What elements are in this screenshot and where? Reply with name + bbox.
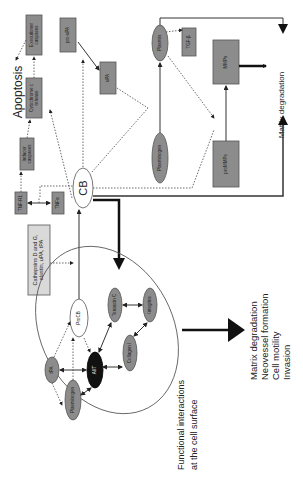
procb-aiit-arrow bbox=[84, 338, 90, 352]
collagen-i-node: Collagen I bbox=[123, 335, 137, 371]
svg-text:Plasminogen: Plasminogen bbox=[157, 144, 162, 171]
svg-text:uPA: uPA bbox=[105, 74, 110, 82]
cb-node: CB bbox=[73, 168, 93, 208]
cb-to-cellsurface-arrow bbox=[93, 200, 119, 262]
plasmin-to-tgfb-arrow bbox=[166, 30, 182, 32]
executioner-caspases-node: Executionercaspases bbox=[26, 15, 42, 55]
outcomes-list: Matrix degradation Neovessel formation C… bbox=[248, 291, 292, 380]
inducer-caspases-node: Inducercaspases bbox=[20, 138, 34, 170]
svg-text:pro-uPA: pro-uPA bbox=[65, 27, 70, 43]
svg-text:Collagen I: Collagen I bbox=[127, 343, 132, 363]
svg-text:Tenascin C: Tenascin C bbox=[112, 293, 117, 316]
cytochrome-c-node: Cytochrome crelease bbox=[26, 78, 42, 118]
prommps-node: proMMPs bbox=[213, 141, 239, 187]
inducer-to-cytc-arrow bbox=[27, 120, 30, 138]
svg-text:Apoptosis: Apoptosis bbox=[11, 66, 25, 119]
plasmin-to-matrix-line bbox=[160, 18, 283, 25]
svg-text:Matrix degradation: Matrix degradation bbox=[277, 72, 286, 138]
svg-text:Executionercaspases: Executionercaspases bbox=[29, 23, 39, 47]
svg-text:AIIT: AIIT bbox=[92, 366, 97, 375]
cb-to-cytc-arrow bbox=[50, 110, 72, 198]
svg-text:Integrins: Integrins bbox=[147, 296, 152, 314]
tnfa-node: TNFα bbox=[52, 192, 64, 214]
proupa-to-upa-arrow bbox=[78, 42, 99, 70]
cb-to-matrix-line bbox=[93, 125, 283, 196]
svg-text:Plasminogen: Plasminogen bbox=[70, 386, 75, 413]
svg-text:Plasmin: Plasmin bbox=[157, 35, 162, 52]
svg-text:TGF-β: TGF-β bbox=[186, 35, 191, 48]
procb-node: ProCB bbox=[70, 299, 88, 337]
tpa-node: tPA bbox=[45, 357, 59, 383]
svg-text:TNF-R1: TNF-R1 bbox=[18, 195, 23, 211]
pro-upa-node: pro-uPA bbox=[60, 18, 76, 52]
integrins-collagen-arrow bbox=[134, 323, 147, 336]
upa-to-plasmin-link bbox=[117, 88, 148, 108]
aiit-node: AIIT bbox=[87, 352, 103, 388]
svg-text:MMPs: MMPs bbox=[223, 55, 228, 68]
tpa-procb-arrow bbox=[54, 322, 70, 357]
tenascin-c-node: Tenascin C bbox=[108, 288, 122, 322]
cathepsins-node: Cathepsins D and G,elastin, uPA, tPA bbox=[28, 225, 50, 295]
svg-text:ProCB: ProCB bbox=[76, 311, 81, 324]
svg-text:CB: CB bbox=[77, 180, 89, 195]
aiit-tenascin-arrow bbox=[99, 323, 111, 352]
tgf-beta-node: TGF-β bbox=[182, 28, 196, 56]
plasminogen-aiit-arrow bbox=[81, 388, 91, 395]
svg-text:Inducercaspases: Inducercaspases bbox=[22, 144, 32, 164]
integrins-node: Integrins bbox=[143, 288, 157, 322]
upa-node: uPA bbox=[100, 62, 116, 94]
tpa-plasminogen-arrow bbox=[52, 383, 62, 405]
plasmin-to-mmp-arrow bbox=[168, 56, 214, 118]
plasminogen-node-upper: Plasminogen bbox=[152, 133, 168, 183]
apoptosis-label: Apoptosis bbox=[11, 66, 25, 119]
diagram-canvas: Apoptosis Executionercaspases Cytochrome… bbox=[0, 0, 303, 491]
svg-text:Functional interactionsat the: Functional interactionsat the cell surfa… bbox=[176, 379, 199, 470]
plasminogen-node-lower: Plasminogen bbox=[65, 380, 81, 420]
tnf-r1-node: TNF-R1 bbox=[15, 192, 27, 214]
svg-text:TNFα: TNFα bbox=[55, 197, 60, 209]
matrix-degradation-label-top: Matrix degradation bbox=[277, 72, 286, 138]
cell-surface-caption: Functional interactionsat the cell surfa… bbox=[176, 379, 199, 470]
mmps-node: MMPs bbox=[213, 40, 239, 84]
svg-text:tPA: tPA bbox=[49, 367, 54, 374]
svg-text:Matrix degradation Neove: Matrix degradation Neovessel formation C… bbox=[248, 291, 292, 380]
plasmin-node: Plasmin bbox=[152, 25, 168, 61]
exec-to-apoptosis-arrow bbox=[16, 40, 26, 60]
svg-text:proMMPs: proMMPs bbox=[223, 154, 228, 174]
